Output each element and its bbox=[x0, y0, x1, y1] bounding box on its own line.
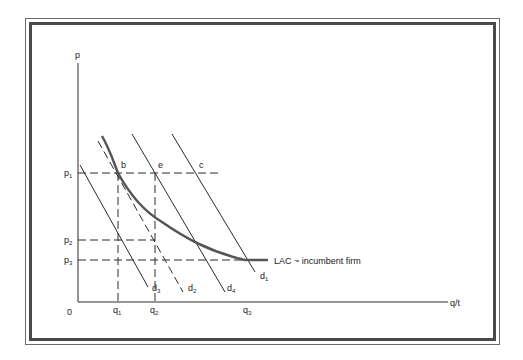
lac-label: LAC ~ incumbent firm bbox=[274, 256, 361, 266]
lac-curve bbox=[102, 136, 268, 260]
q3-label: q3 bbox=[243, 305, 252, 316]
p3-label: p3 bbox=[64, 255, 73, 266]
q1-label: q1 bbox=[113, 305, 122, 316]
d2-label: d2 bbox=[188, 283, 197, 294]
origin-label: 0 bbox=[67, 307, 72, 317]
d3-label: d3 bbox=[152, 283, 161, 294]
economics-diagram: p q/t 0 p1 p2 p3 q1 q2 q3 b e c d1 d2 d3… bbox=[0, 0, 523, 360]
point-c-label: c bbox=[199, 160, 204, 170]
demand-curve-d3 bbox=[80, 165, 148, 287]
d4-label: d4 bbox=[227, 283, 236, 294]
point-e-label: e bbox=[158, 160, 163, 170]
d1-label: d1 bbox=[260, 271, 269, 282]
p1-label: p1 bbox=[64, 168, 73, 179]
q2-label: q2 bbox=[150, 305, 159, 316]
p2-label: p2 bbox=[64, 235, 73, 246]
x-axis-label: q/t bbox=[450, 298, 461, 308]
demand-curve-d2 bbox=[98, 141, 183, 292]
y-axis-label: p bbox=[75, 50, 80, 60]
point-b-label: b bbox=[121, 160, 126, 170]
demand-curve-d4 bbox=[132, 134, 225, 292]
